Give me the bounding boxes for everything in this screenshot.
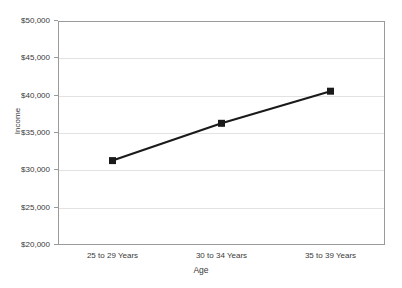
y-tick-label: $35,000 bbox=[21, 129, 50, 137]
y-tick-label: $30,000 bbox=[21, 166, 50, 174]
y-tick-label: $20,000 bbox=[21, 241, 50, 249]
gridline bbox=[59, 96, 384, 97]
gridline bbox=[59, 133, 384, 134]
y-tick-label: $45,000 bbox=[21, 54, 50, 62]
gridline bbox=[59, 245, 384, 246]
line-chart: Income $50,000 $45,000 $40,000 $35,000 $… bbox=[0, 0, 402, 288]
gridline bbox=[59, 208, 384, 209]
x-axis-title: Age bbox=[0, 266, 402, 275]
y-tick-label: $50,000 bbox=[21, 17, 50, 25]
y-axis-title: Income bbox=[14, 91, 22, 151]
gridline bbox=[59, 21, 384, 22]
y-tick-label: $25,000 bbox=[21, 204, 50, 212]
gridline bbox=[59, 170, 384, 171]
plot-area bbox=[58, 21, 385, 245]
x-tick-label: 25 to 29 Years bbox=[58, 251, 168, 260]
gridline bbox=[59, 58, 384, 59]
x-tick-label: 35 to 39 Years bbox=[276, 251, 386, 260]
y-tick-label: $40,000 bbox=[21, 92, 50, 100]
x-tick-label: 30 to 34 Years bbox=[167, 251, 277, 260]
